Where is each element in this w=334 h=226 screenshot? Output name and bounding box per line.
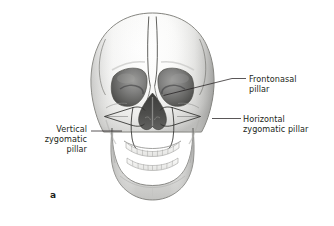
label-frontonasal-pillar: Frontonasal pillar <box>249 74 297 94</box>
anatomical-figure: Frontonasal pillar Horizontal zygomatic … <box>0 0 334 226</box>
skull <box>91 13 214 200</box>
label-frontonasal-line-1: Frontonasal <box>249 74 297 84</box>
label-vertical-zygomatic-pillar: Vertical zygomatic pillar <box>45 124 87 155</box>
label-horizontal-line-2: zygomatic pillar <box>243 124 308 134</box>
label-vertical-line-3: pillar <box>45 144 87 154</box>
label-vertical-line-1: Vertical <box>45 124 87 134</box>
label-frontonasal-line-2: pillar <box>249 84 297 94</box>
label-vertical-line-2: zygomatic <box>45 134 87 144</box>
label-horizontal-zygomatic-pillar: Horizontal zygomatic pillar <box>243 114 308 134</box>
left-orbit-highlight <box>117 74 135 84</box>
right-orbit-highlight <box>171 74 189 84</box>
lower-teeth <box>127 158 178 171</box>
label-horizontal-line-1: Horizontal <box>243 114 308 124</box>
figure-letter: a <box>50 190 56 200</box>
